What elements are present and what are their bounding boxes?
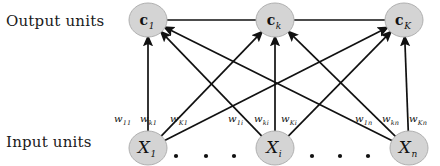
weight-label: w11 <box>114 113 131 127</box>
weight-label: wki <box>254 113 269 127</box>
node-ck: ck <box>256 3 294 37</box>
weight-label: w1n <box>355 113 372 127</box>
ellipsis-dot <box>204 154 208 158</box>
node-x1: X1 <box>129 131 167 165</box>
edge-xn-to-cK <box>405 36 409 132</box>
ellipsis-dot <box>174 154 178 158</box>
network-diagram-figure: Output units Input units c1ckcKX1XiXn w1… <box>0 0 440 166</box>
node-cK: cK <box>385 3 423 37</box>
node-c1: c1 <box>129 3 167 37</box>
ellipsis-dot <box>366 154 370 158</box>
node-xi: Xi <box>256 131 294 165</box>
weight-label: wKi <box>281 113 297 127</box>
weight-label-layer: w11wk1wK1w1iwkiwKiw1nwknwKn <box>114 113 427 127</box>
weight-label: wk1 <box>140 113 157 127</box>
node-circle <box>385 3 423 37</box>
ellipsis-dot <box>232 154 236 158</box>
node-xn: Xn <box>390 131 428 165</box>
network-graph-svg: c1ckcKX1XiXn w11wk1wK1w1iwkiwKiw1nwknwKn <box>0 0 440 166</box>
weight-label: wKn <box>409 113 427 127</box>
ellipsis-dot <box>310 154 314 158</box>
ellipsis-dot <box>338 154 342 158</box>
